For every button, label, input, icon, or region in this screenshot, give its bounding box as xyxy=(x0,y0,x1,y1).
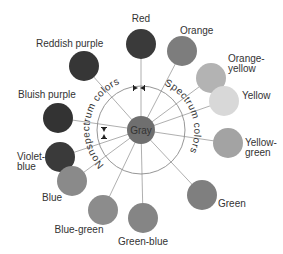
yellow-green-label-2: green xyxy=(245,147,271,158)
orange-yellow-label-2: yellow xyxy=(228,63,257,74)
reddish-purple-label: Reddish purple xyxy=(36,38,104,49)
green-label: Green xyxy=(218,198,246,209)
bluish-purple-circle xyxy=(43,103,73,133)
green-blue-circle xyxy=(128,203,158,233)
yellow-green-circle xyxy=(213,128,243,158)
blue-green-label: Blue-green xyxy=(55,224,104,235)
red-label: Red xyxy=(132,13,150,24)
yellow-circle xyxy=(209,86,239,116)
violet-blue-label-2: blue xyxy=(17,161,36,172)
reddish-purple-circle xyxy=(69,51,99,81)
yellow-label: Yellow xyxy=(242,90,271,101)
green-circle xyxy=(187,180,217,210)
color-wheel-diagram: Nonspectrum colors Spectrum colors Gray … xyxy=(0,0,283,254)
green-blue-label: Green-blue xyxy=(118,236,168,247)
bluish-purple-label: Bluish purple xyxy=(18,89,76,100)
blue-label: Blue xyxy=(42,192,62,203)
orange-label: Orange xyxy=(180,25,214,36)
boundary-marker-left xyxy=(101,127,107,139)
red-circle xyxy=(126,29,156,59)
nonspectrum-label: Nonspectrum colors xyxy=(80,75,121,171)
gray-label: Gray xyxy=(130,125,152,136)
blue-green-circle xyxy=(88,195,118,225)
orange-circle xyxy=(167,36,197,66)
